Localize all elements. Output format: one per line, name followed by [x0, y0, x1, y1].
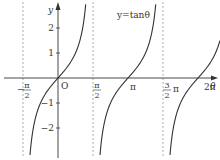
x-tick-label: 2π: [204, 82, 216, 92]
y-axis-label: y: [47, 5, 54, 15]
y-tick-label: 2: [48, 23, 54, 33]
origin-label: O: [61, 81, 68, 91]
x-tick-numerator: 3: [164, 81, 169, 90]
y-tick-label: −1: [41, 98, 54, 108]
function-label: y=tanθ: [116, 10, 150, 20]
axis-labels: yθOy=tanθ21−1−2−π2π2π32π2π: [17, 5, 216, 133]
tan-branch: [100, 4, 156, 155]
y-axis-arrow-icon: [56, 2, 61, 10]
tan-graph: yθOy=tanθ21−1−2−π2π2π32π2π: [0, 0, 220, 160]
y-tick-label: −2: [41, 123, 54, 133]
asymptote-lines: [23, 2, 163, 158]
x-tick-denominator: 2: [24, 91, 29, 100]
x-tick-denominator: 2: [164, 91, 169, 100]
x-tick-label: π: [130, 82, 136, 92]
x-tick-suffix: π: [173, 84, 179, 94]
x-tick-numerator: π: [24, 81, 29, 90]
x-tick-numerator: π: [94, 81, 99, 90]
x-axis-arrow-icon: [211, 76, 218, 81]
tan-curves: [30, 4, 220, 155]
y-tick-label: 1: [48, 48, 54, 58]
x-tick-denominator: 2: [94, 91, 99, 100]
axes: [4, 2, 218, 158]
tan-branch: [170, 41, 220, 155]
